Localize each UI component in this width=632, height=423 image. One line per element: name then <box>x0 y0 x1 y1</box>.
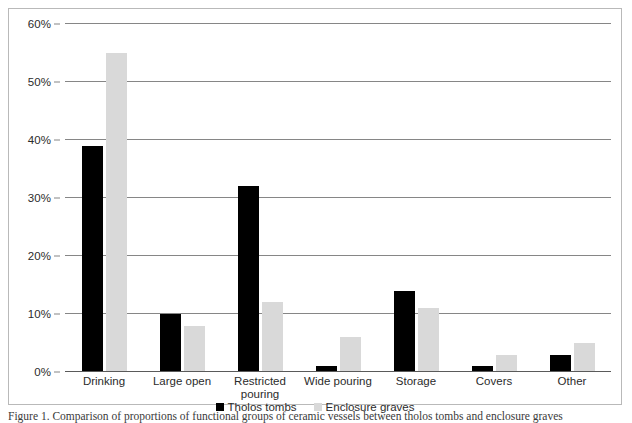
x-axis-category-label: Storage <box>377 375 455 401</box>
bar-group <box>455 24 533 372</box>
y-axis: 0%10%20%30%40%50%60% <box>17 24 61 372</box>
y-axis-tick-label: 30% <box>28 192 51 204</box>
bar <box>106 53 127 372</box>
bar <box>496 355 517 372</box>
y-axis-tick-mark <box>54 198 60 199</box>
x-axis-labels: DrinkingLarge openRestricted pouringWide… <box>65 375 611 401</box>
y-axis-tick-mark <box>54 314 60 315</box>
x-axis-category-label: Other <box>533 375 611 401</box>
y-axis-tick-label: 50% <box>28 76 51 88</box>
bar <box>394 291 415 372</box>
bar-group <box>143 24 221 372</box>
bar <box>184 326 205 372</box>
x-axis-category-label: Drinking <box>65 375 143 401</box>
bar-group <box>299 24 377 372</box>
bar <box>238 186 259 372</box>
x-axis-category-label: Wide pouring <box>299 375 377 401</box>
y-axis-tick-mark <box>54 256 60 257</box>
bar <box>160 314 181 372</box>
bar <box>262 302 283 372</box>
bar <box>574 343 595 372</box>
bar <box>340 337 361 372</box>
y-axis-tick-label: 40% <box>28 134 51 146</box>
x-axis-line <box>65 371 611 372</box>
y-axis-tick-mark <box>54 140 60 141</box>
plot-area <box>65 24 611 372</box>
bar <box>418 308 439 372</box>
y-axis-tick-label: 10% <box>28 308 51 320</box>
bar-group <box>533 24 611 372</box>
y-axis-tick-label: 0% <box>34 366 51 378</box>
chart-frame: 0%10%20%30%40%50%60% DrinkingLarge openR… <box>8 8 622 405</box>
x-axis-category-label: Restricted pouring <box>221 375 299 401</box>
x-axis-category-label: Large open <box>143 375 221 401</box>
bar-group <box>377 24 455 372</box>
bar-group <box>221 24 299 372</box>
y-axis-tick-label: 20% <box>28 250 51 262</box>
x-axis-category-label: Covers <box>455 375 533 401</box>
figure-caption: Figure 1. Comparison of proportions of f… <box>8 409 624 423</box>
y-axis-tick-mark <box>54 24 60 25</box>
bar <box>82 146 103 372</box>
y-axis-tick-mark <box>54 82 60 83</box>
y-axis-tick-label: 60% <box>28 18 51 30</box>
bar-groups <box>65 24 611 372</box>
bar-group <box>65 24 143 372</box>
y-axis-tick-mark <box>54 372 60 373</box>
bar <box>550 355 571 372</box>
